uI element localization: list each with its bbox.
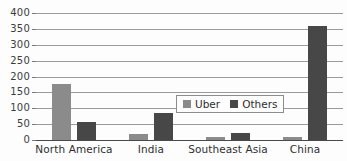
- legend-swatch-icon: [183, 100, 191, 108]
- legend-entry-others: Others: [230, 99, 277, 110]
- gridline: [36, 29, 343, 30]
- y-axis-tick-label: 100: [0, 103, 30, 113]
- y-axis-tick-label: 250: [0, 56, 30, 66]
- legend-label-uber: Uber: [195, 99, 220, 110]
- gridline: [36, 61, 343, 62]
- x-axis-label-india: India: [138, 143, 164, 155]
- y-axis-tick-label: 150: [0, 87, 30, 97]
- legend-swatch-icon: [230, 100, 238, 108]
- plot-area: [36, 13, 343, 140]
- y-axis-tick-label: 50: [0, 119, 30, 129]
- gridline: [36, 13, 343, 14]
- x-axis-label-china: China: [290, 143, 321, 155]
- y-axis-tick-label: 0: [0, 135, 30, 145]
- y-axis-tick-label: 300: [0, 40, 30, 50]
- gridline: [36, 45, 343, 46]
- y-axis-tick-label: 350: [0, 24, 30, 34]
- x-axis-label-north-america: North America: [35, 143, 112, 155]
- legend-label-others: Others: [242, 99, 277, 110]
- bar-uber-north-america: [52, 84, 71, 140]
- y-axis-tick-label: 400: [0, 8, 30, 18]
- x-axis-labels: North America India Southeast Asia China: [36, 143, 343, 159]
- x-axis-baseline: [36, 140, 343, 141]
- bar-others-india: [154, 113, 173, 140]
- bar-others-southeast-asia: [231, 133, 250, 140]
- bar-uber-china: [283, 137, 302, 140]
- bar-uber-southeast-asia: [206, 137, 225, 140]
- legend-entry-uber: Uber: [183, 99, 220, 110]
- bar-others-north-america: [77, 122, 96, 140]
- bar-uber-india: [129, 134, 148, 140]
- y-axis: 400 350 300 250 200 150 100 50 0: [0, 13, 30, 140]
- x-axis-label-southeast-asia: Southeast Asia: [188, 143, 268, 155]
- y-axis-tick-label: 200: [0, 72, 30, 82]
- gridline: [36, 92, 343, 93]
- bar-others-china: [308, 26, 327, 140]
- legend: Uber Others: [176, 95, 284, 113]
- bar-chart: 400 350 300 250 200 150 100 50 0: [0, 0, 347, 161]
- gridline: [36, 77, 343, 78]
